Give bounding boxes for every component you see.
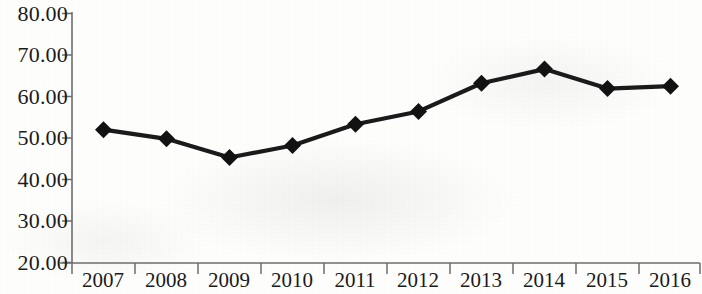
data-point-marker (599, 80, 616, 97)
data-point-marker (347, 116, 364, 133)
line-chart: 80.00 70.00 60.00 50.00 40.00 30.00 20.0… (0, 0, 702, 294)
x-tick-label: 2015 (572, 268, 642, 293)
data-point-marker (158, 130, 175, 147)
data-point-marker (536, 61, 553, 78)
chart-plot-area (0, 0, 702, 294)
series-line (104, 69, 671, 157)
x-tick-label: 2007 (68, 268, 138, 293)
data-point-marker (284, 137, 301, 154)
data-point-marker (410, 103, 427, 120)
y-tick-label: 40.00 (0, 167, 68, 193)
x-tick-label: 2016 (635, 268, 702, 293)
y-tick-label: 70.00 (0, 42, 68, 68)
data-point-marker (221, 149, 238, 166)
x-tick-label: 2014 (509, 268, 579, 293)
y-tick-label: 50.00 (0, 125, 68, 151)
y-tick-label: 30.00 (0, 208, 68, 234)
y-tick-label: 60.00 (0, 84, 68, 110)
x-tick-label: 2011 (320, 268, 390, 293)
y-tick-label: 20.00 (0, 250, 68, 276)
series-markers (95, 61, 679, 166)
x-tick-label: 2010 (257, 268, 327, 293)
x-tick-label: 2009 (194, 268, 264, 293)
data-point-marker (473, 75, 490, 92)
data-point-marker (95, 121, 112, 138)
x-tick-label: 2008 (131, 268, 201, 293)
x-tick-label: 2012 (383, 268, 453, 293)
data-point-marker (662, 78, 679, 95)
x-tick-label: 2013 (446, 268, 516, 293)
y-tick-label: 80.00 (0, 1, 68, 27)
